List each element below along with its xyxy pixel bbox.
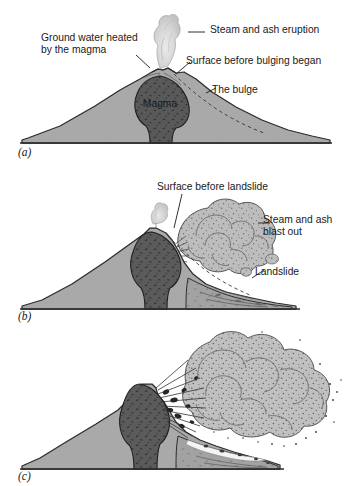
panel-letter-b: (b): [18, 310, 31, 322]
panel-b: Surface before landslide Steam and ashbl…: [0, 166, 358, 326]
label-steam-and-ash-blast-out: Steam and ashblast out: [263, 214, 332, 239]
label-the-bulge: The bulge: [212, 84, 258, 96]
label-surface-before-bulging: Surface before bulging began: [186, 55, 321, 67]
magma-label: Magma: [143, 98, 178, 109]
label-steam-and-ash-eruption: Steam and ash eruption: [210, 24, 319, 36]
panel-c: (c): [0, 326, 358, 486]
label-ground-water-heated: Ground water heatedby the magma: [41, 32, 138, 57]
debris-apron: [176, 436, 278, 469]
ash-cloud-main: [183, 331, 342, 447]
label-ground-water-line-1: Ground water heated: [41, 32, 138, 43]
summit-steam-puff-icon: [151, 203, 168, 228]
steam-plume-icon: [154, 14, 180, 74]
panel-letter-a: (a): [18, 146, 31, 158]
panel-c-illustration: [0, 326, 358, 486]
label-ground-water-line-2: by the magma: [41, 44, 106, 55]
panel-a: Magma Ground water heatedby the magma St…: [0, 0, 358, 166]
volcano-eruption-figure: Magma Ground water heatedby the magma St…: [0, 0, 358, 486]
label-blast-line-1: Steam and ash: [263, 214, 332, 225]
label-surface-before-landslide: Surface before landslide: [157, 181, 268, 193]
label-blast-line-2: blast out: [263, 226, 302, 237]
label-landslide: Landslide: [255, 266, 299, 278]
panel-letter-c: (c): [18, 470, 31, 482]
